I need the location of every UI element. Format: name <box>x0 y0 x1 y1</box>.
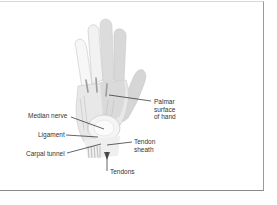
index-finger <box>114 29 126 82</box>
hand-illustration <box>0 0 277 205</box>
label-ligament: Ligament <box>38 131 65 139</box>
label-median-nerve: Median nerve <box>28 112 67 120</box>
label-tendons: Tendons <box>110 168 135 176</box>
label-palmar-surface: Palmar surface of hand <box>154 98 184 121</box>
label-tendon-sheath-line1: Tendon <box>134 138 164 146</box>
label-palmar-line3: of hand <box>154 113 184 121</box>
label-tendon-sheath: Tendon sheath <box>134 138 164 153</box>
label-palmar-line1: Palmar <box>154 98 184 106</box>
label-carpal-tunnel: Carpal tunnel <box>26 150 65 158</box>
label-tendon-sheath-line2: sheath <box>134 146 164 154</box>
label-palmar-line2: surface <box>154 106 184 114</box>
